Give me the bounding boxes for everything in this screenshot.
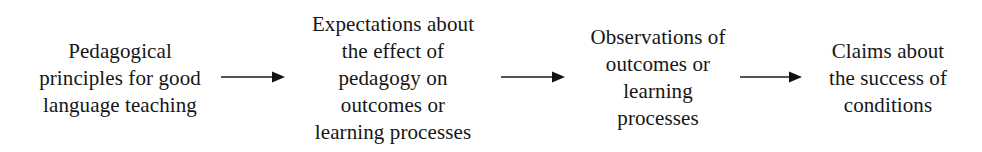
node-claims: Claims aboutthe success ofconditions [829,38,947,119]
node-text-line: language teaching [39,92,201,119]
node-text-line: Pedagogical [39,38,201,65]
node-pedagogical-principles: Pedagogicalprinciples for goodlanguage t… [39,38,201,119]
node-text-line: principles for good [39,65,201,92]
node-expectations: Expectations aboutthe effect ofpedagogy … [312,11,474,146]
node-text-line: the effect of [312,38,474,65]
node-text-line: Claims about [829,38,947,65]
node-text-line: learning processes [312,119,474,146]
node-observations: Observations ofoutcomes orlearningproces… [590,24,725,132]
node-text-line: Observations of [590,24,725,51]
arrow-principles-to-expectations-icon [221,71,285,83]
node-text-line: learning [590,78,725,105]
arrow-expectations-to-observations-icon [501,71,565,83]
node-text-line: pedagogy on [312,65,474,92]
arrow-observations-to-claims-icon [740,71,802,83]
node-text-line: outcomes or [312,92,474,119]
node-text-line: processes [590,105,725,132]
node-text-line: outcomes or [590,51,725,78]
node-text-line: Expectations about [312,11,474,38]
node-text-line: the success of [829,65,947,92]
node-text-line: conditions [829,92,947,119]
flow-diagram: Pedagogicalprinciples for goodlanguage t… [0,0,982,152]
